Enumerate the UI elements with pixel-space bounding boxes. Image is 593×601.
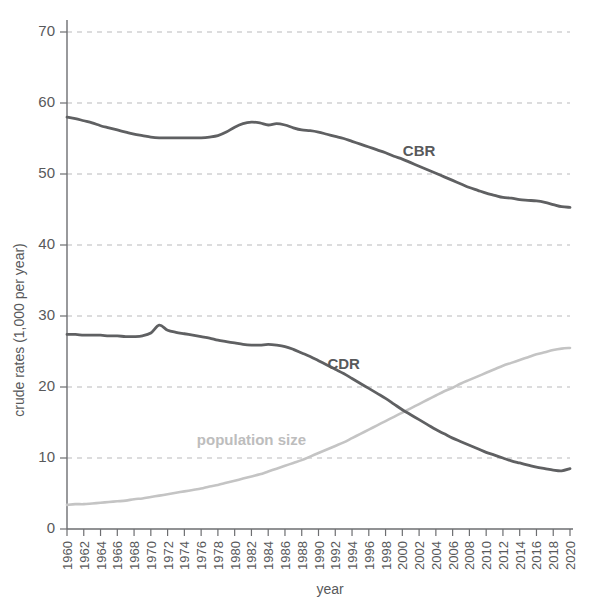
x-tick-label: 1998 [379, 541, 394, 570]
x-tick-label: 2000 [395, 541, 410, 570]
x-tick-label: 1994 [345, 541, 360, 570]
series-label-cdr: CDR [327, 355, 360, 372]
x-tick-label: 1984 [261, 541, 276, 570]
x-tick-label: 1992 [328, 541, 343, 570]
line-chart: 010203040506070 196019621964196619681970… [0, 0, 593, 601]
x-tick-label: 2008 [462, 541, 477, 570]
y-tick-label: 0 [47, 519, 55, 536]
x-tick-label: 1962 [77, 541, 92, 570]
x-tick-labels: 1960196219641966196819701972197419761978… [60, 541, 578, 570]
x-tick-label: 2012 [496, 541, 511, 570]
chart-container: 010203040506070 196019621964196619681970… [0, 0, 593, 601]
x-tick-label: 1980 [228, 541, 243, 570]
x-tick-label: 1960 [60, 541, 75, 570]
series-line-cbr [67, 117, 570, 207]
x-tick-label: 1968 [127, 541, 142, 570]
y-axis-title: crude rates (1,000 per year) [11, 243, 27, 417]
series-label-cbr: CBR [403, 142, 436, 159]
x-tick-marks [67, 529, 570, 536]
series-line-cdr [67, 325, 570, 471]
x-tick-label: 2020 [563, 541, 578, 570]
x-tick-label: 1988 [295, 541, 310, 570]
y-tick-label: 70 [38, 22, 55, 39]
y-tick-label: 50 [38, 164, 55, 181]
series-label-population-size: population size [197, 431, 306, 448]
x-tick-label: 1990 [312, 541, 327, 570]
series-line-population-size [67, 348, 570, 505]
x-tick-label: 2018 [546, 541, 561, 570]
y-tick-labels: 010203040506070 [38, 22, 55, 536]
x-tick-label: 2010 [479, 541, 494, 570]
series-annotations: CBRCDRpopulation size [197, 142, 436, 448]
x-tick-label: 2002 [412, 541, 427, 570]
x-tick-label: 1982 [244, 541, 259, 570]
y-tick-label: 40 [38, 235, 55, 252]
x-tick-label: 1964 [94, 541, 109, 570]
y-tick-label: 20 [38, 377, 55, 394]
x-tick-label: 1996 [362, 541, 377, 570]
x-tick-label: 2004 [429, 541, 444, 570]
x-tick-label: 2016 [529, 541, 544, 570]
gridlines [67, 32, 570, 458]
x-tick-label: 1976 [194, 541, 209, 570]
series-lines [67, 117, 570, 505]
y-tick-label: 60 [38, 93, 55, 110]
x-tick-label: 1972 [161, 541, 176, 570]
y-tick-label: 30 [38, 306, 55, 323]
x-tick-label: 1978 [211, 541, 226, 570]
x-tick-label: 1986 [278, 541, 293, 570]
y-tick-label: 10 [38, 448, 55, 465]
x-tick-label: 2006 [446, 541, 461, 570]
x-tick-label: 1974 [177, 541, 192, 570]
x-tick-label: 1970 [144, 541, 159, 570]
x-axis-title: year [316, 581, 344, 597]
x-tick-label: 1966 [110, 541, 125, 570]
x-tick-label: 2014 [513, 541, 528, 570]
